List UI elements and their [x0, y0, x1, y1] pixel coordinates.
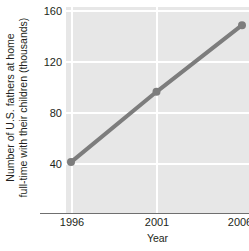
data-point-1996 — [67, 158, 75, 166]
data-point-2001 — [153, 88, 161, 96]
x-tick-label-2006: 2006 — [228, 216, 249, 229]
y-axis-title: Number of U.S. fathers at home full-time… — [0, 0, 34, 215]
x-axis-line — [40, 213, 249, 214]
y-tick-label-40: 40 — [34, 159, 62, 170]
x-axis-title: Year — [66, 232, 249, 245]
x-tick-label-1996: 1996 — [60, 216, 84, 229]
series-plot — [66, 7, 249, 213]
y-axis-title-line-2: full-time with their children (thousands… — [17, 18, 30, 198]
y-axis-title-line-1: Number of U.S. fathers at home — [4, 33, 17, 181]
y-tick-label-160: 160 — [34, 6, 62, 17]
line-chart: Number of U.S. fathers at home full-time… — [0, 0, 249, 251]
y-tick-label-120: 120 — [34, 57, 62, 68]
data-point-2006 — [238, 21, 246, 29]
y-tick-label-80: 80 — [34, 108, 62, 119]
x-tick-label-2001: 2001 — [145, 216, 169, 229]
plot-area — [66, 7, 249, 213]
y-axis-tick-labels: 160 120 80 40 — [34, 0, 62, 213]
x-axis-tick-labels: 1996 2001 2006 — [40, 216, 249, 232]
